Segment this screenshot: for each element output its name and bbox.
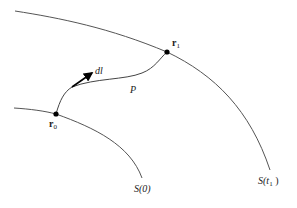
label-s-t1: S(t1 ) xyxy=(258,175,278,188)
label-r0: r0 xyxy=(49,118,57,131)
dl-vector-arrow xyxy=(72,73,92,87)
label-dl: dl xyxy=(95,65,103,76)
point-r0 xyxy=(53,111,58,116)
path-p-curve xyxy=(56,52,167,114)
point-r1 xyxy=(164,49,169,54)
surface-s0-curve xyxy=(14,108,142,178)
label-path-p: P xyxy=(129,84,136,95)
label-s0: S(0) xyxy=(134,183,151,195)
surface-s-t1-curve xyxy=(15,11,270,170)
label-r1: r1 xyxy=(172,37,180,50)
diagram-canvas: r1 r0 dl P S(0) S(t1 ) xyxy=(0,0,297,208)
